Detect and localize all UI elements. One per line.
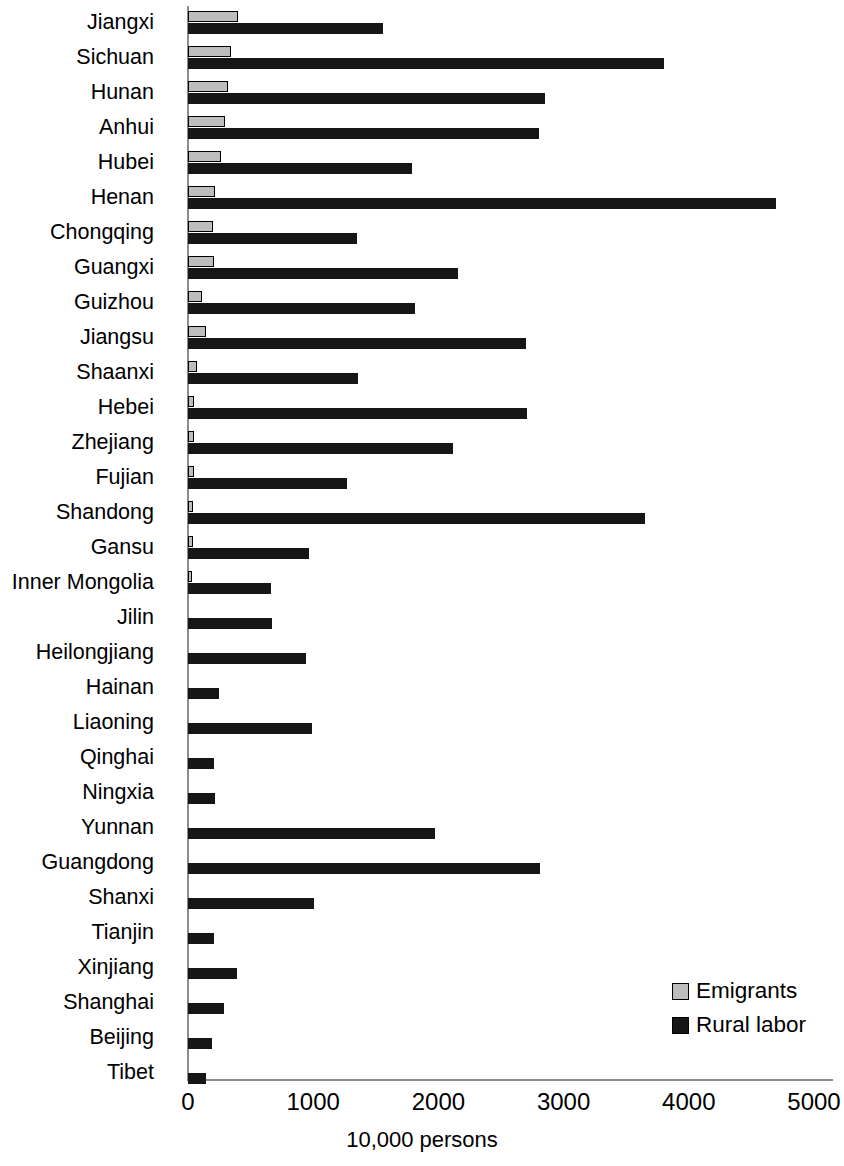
- chart-row: Liaoning: [188, 706, 814, 741]
- chart-row: Heilongjiang: [188, 636, 814, 671]
- bar-emigrants: [188, 186, 215, 197]
- x-axis-tick-5000: 5000: [754, 1088, 844, 1116]
- chart-row: Jilin: [188, 601, 814, 636]
- bar-rural-labor: [188, 198, 776, 209]
- category-label: Shandong: [0, 498, 154, 527]
- category-label: Beijing: [0, 1023, 154, 1052]
- bar-rural-labor: [188, 793, 215, 804]
- category-label: Yunnan: [0, 813, 154, 842]
- plot-area: JiangxiSichuanHunanAnhuiHubeiHenanChongq…: [188, 6, 814, 1080]
- chart-row: Anhui: [188, 111, 814, 146]
- bar-rural-labor: [188, 723, 312, 734]
- bar-emigrants: [188, 501, 193, 512]
- chart-row: Shandong: [188, 496, 814, 531]
- bar-emigrants: [188, 466, 194, 477]
- category-label: Hebei: [0, 393, 154, 422]
- bar-emigrants: [188, 326, 206, 337]
- category-label: Shaanxi: [0, 358, 154, 387]
- rural-labor-swatch-icon: [672, 1017, 689, 1034]
- chart-row: Sichuan: [188, 41, 814, 76]
- category-label: Inner Mongolia: [0, 568, 154, 597]
- category-label: Anhui: [0, 113, 154, 142]
- category-label: Jiangxi: [0, 8, 154, 37]
- chart-row: Qinghai: [188, 741, 814, 776]
- bar-rural-labor: [188, 933, 214, 944]
- bar-rural-labor: [188, 23, 383, 34]
- bar-rural-labor: [188, 653, 306, 664]
- chart-row: Tianjin: [188, 916, 814, 951]
- chart-row: Guizhou: [188, 286, 814, 321]
- category-label: Liaoning: [0, 708, 154, 737]
- bar-rural-labor: [188, 268, 458, 279]
- bar-rural-labor: [188, 1038, 212, 1049]
- category-label: Tibet: [0, 1058, 154, 1087]
- bar-rural-labor: [188, 233, 357, 244]
- bar-rural-labor: [188, 93, 545, 104]
- category-label: Ningxia: [0, 778, 154, 807]
- category-label: Gansu: [0, 533, 154, 562]
- chart-row: Henan: [188, 181, 814, 216]
- bar-rural-labor: [188, 583, 271, 594]
- bar-rural-labor: [188, 863, 540, 874]
- category-label: Henan: [0, 183, 154, 212]
- bar-rural-labor: [188, 688, 219, 699]
- bar-emigrants: [188, 536, 193, 547]
- bar-emigrants: [188, 571, 192, 582]
- chart-row: Hubei: [188, 146, 814, 181]
- category-label: Heilongjiang: [0, 638, 154, 667]
- bar-emigrants: [188, 361, 197, 372]
- bar-emigrants: [188, 291, 202, 302]
- category-label: Shanxi: [0, 883, 154, 912]
- chart-row: Shanxi: [188, 881, 814, 916]
- bar-emigrants: [188, 11, 238, 22]
- chart-row: Guangxi: [188, 251, 814, 286]
- chart-row: Shaanxi: [188, 356, 814, 391]
- bar-rural-labor: [188, 1003, 224, 1014]
- bar-emigrants: [188, 116, 225, 127]
- legend-item-emigrants: Emigrants: [672, 974, 806, 1008]
- bar-rural-labor: [188, 828, 435, 839]
- bar-rural-labor: [188, 303, 415, 314]
- bar-rural-labor: [188, 898, 314, 909]
- category-label: Hubei: [0, 148, 154, 177]
- chart-row: Guangdong: [188, 846, 814, 881]
- chart-row: Zhejiang: [188, 426, 814, 461]
- x-axis-tick-0: 0: [128, 1088, 248, 1116]
- chart-legend: Emigrants Rural labor: [672, 974, 806, 1042]
- bar-rural-labor: [188, 758, 214, 769]
- category-label: Guangxi: [0, 253, 154, 282]
- category-label: Chongqing: [0, 218, 154, 247]
- bar-rural-labor: [188, 338, 526, 349]
- bar-emigrants: [188, 396, 194, 407]
- bar-emigrants: [188, 151, 221, 162]
- category-label: Jiangsu: [0, 323, 154, 352]
- category-label: Shanghai: [0, 988, 154, 1017]
- bar-rural-labor: [188, 408, 527, 419]
- category-label: Qinghai: [0, 743, 154, 772]
- category-label: Guangdong: [0, 848, 154, 877]
- category-label: Sichuan: [0, 43, 154, 72]
- chart-row: Inner Mongolia: [188, 566, 814, 601]
- chart-row: Fujian: [188, 461, 814, 496]
- x-axis-tick-1000: 1000: [253, 1088, 373, 1116]
- bar-rural-labor: [188, 1073, 206, 1084]
- emigrants-swatch-icon: [672, 983, 689, 1000]
- chart-row: Jiangxi: [188, 6, 814, 41]
- bar-rural-labor: [188, 58, 664, 69]
- chart-row: Hebei: [188, 391, 814, 426]
- bar-emigrants: [188, 46, 231, 57]
- x-axis-tick-4000: 4000: [629, 1088, 749, 1116]
- chart-row: Gansu: [188, 531, 814, 566]
- x-axis-title: 10,000 persons: [0, 1126, 844, 1154]
- bar-emigrants: [188, 221, 213, 232]
- bar-rural-labor: [188, 163, 412, 174]
- chart-row: Jiangsu: [188, 321, 814, 356]
- category-label: Tianjin: [0, 918, 154, 947]
- bar-rural-labor: [188, 443, 453, 454]
- x-axis-tick-2000: 2000: [378, 1088, 498, 1116]
- bar-emigrants: [188, 431, 194, 442]
- bar-rural-labor: [188, 373, 358, 384]
- category-label: Hunan: [0, 78, 154, 107]
- bar-rural-labor: [188, 548, 309, 559]
- category-label: Fujian: [0, 463, 154, 492]
